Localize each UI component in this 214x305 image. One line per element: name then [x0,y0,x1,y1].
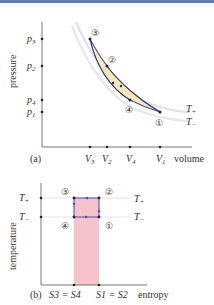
tick-dot [98,284,101,287]
tick-v2: V2 [102,153,112,166]
cycle-vertices [89,38,162,114]
tick-v3: V3 [85,153,95,166]
tick-t-plus: T+ [19,192,30,205]
cycle-interior [90,39,160,112]
isotherm-label-t-plus: T+ [186,103,197,116]
tick-s3-s4: S3 = S4 [49,289,81,300]
point-4-label: ④ [125,105,133,115]
isotherm-label-t-minus: T− [186,116,197,129]
right-label-t-plus: T+ [134,193,145,206]
tick-t-minus: T− [19,211,30,224]
cycle-path [90,39,160,112]
tick-p2: p2 [26,60,36,73]
tick-p1: p1 [26,106,36,119]
y-axis-label: pressure [7,54,18,88]
x-axis-label: volume [174,153,205,164]
y-ticks: p3 p2 p4 p1 [26,33,43,119]
point-3-label: ③ [91,28,99,38]
heat-area [74,198,99,285]
tick-p3: p3 [26,33,36,46]
tick-v1: V1 [156,153,166,166]
panel-b-label: (b) [30,289,42,301]
mid-marker [120,85,122,87]
panel-a: p3 p2 p4 p1 V3 V2 V4 V1 ③ ② ④ ① T [7,22,205,166]
tick-dot [40,216,43,219]
x-axis-label: entropy [138,289,169,300]
tick-v4: V4 [126,153,136,166]
point-2-label: ② [108,55,116,65]
tick-s1-s2: S1 = S2 [96,289,128,300]
x-ticks: V3 V2 V4 V1 [85,146,166,166]
y-axis-label: temperature [7,222,18,270]
panel-b: T+ T− T+ T− ③ ② ④ ① temperature (b) S3 =… [7,183,169,301]
point-1-label: ① [155,118,163,128]
ts-point-1-label: ① [105,221,113,231]
right-label-t-minus: T− [134,211,145,224]
ts-point-4-label: ④ [61,221,69,231]
carnot-cycle-figure: p3 p2 p4 p1 V3 V2 V4 V1 ③ ② ④ ① T [0,0,214,305]
ts-point-2-label: ② [105,187,113,197]
ts-point-3-label: ③ [61,187,69,197]
mid-marker [112,82,114,84]
tick-dot [40,197,43,200]
tick-dot [73,284,76,287]
panel-a-label: (a) [30,153,41,165]
